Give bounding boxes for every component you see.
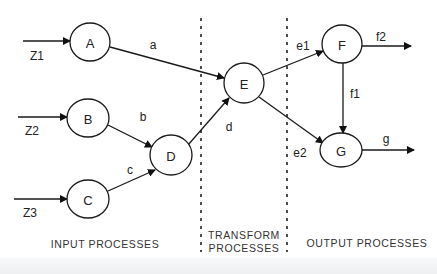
edge-label-a: a [150,38,157,52]
edge-label-g: g [383,132,390,146]
edge-label-c: c [127,163,133,177]
section-label-transform-line1: TRANSFORM [208,229,280,241]
edge-label-f2: f2 [376,30,386,44]
edge-label-z1: Z1 [30,49,44,63]
node-f-label: F [338,38,346,53]
edge-label-d: d [226,120,233,134]
node-b-label: B [84,112,93,127]
node-e: E [224,63,264,103]
section-label-input: INPUT PROCESSES [51,238,160,250]
edge-e1 [263,51,323,75]
node-g-label: G [336,144,346,159]
section-label-transform-line2: PROCESSES [209,242,280,254]
edge-label-e2: e2 [293,146,307,160]
edge-label-z2: Z2 [25,124,39,138]
node-f: F [322,25,362,63]
edge-e2 [259,97,323,143]
process-flow-diagram: A B C D E F G Z1 Z2 Z3 a b c d e1 e2 f1 … [0,0,437,274]
node-e-label: E [240,77,249,92]
node-a-label: A [86,36,95,51]
edge-b [108,125,152,147]
edge-a [110,47,224,78]
edge-label-b: b [140,110,147,124]
edge-label-e1: e1 [296,39,310,53]
node-d: D [150,135,192,175]
node-g: G [320,133,362,167]
edge-d [188,98,229,145]
node-b: B [67,99,109,137]
node-c-label: C [83,193,92,208]
section-label-output: OUTPUT PROCESSES [307,237,428,249]
node-a: A [70,23,110,61]
scan-edge-shading [0,258,437,274]
edge-label-f1: f1 [350,87,360,101]
node-d-label: D [166,149,175,164]
node-c: C [67,180,109,218]
edge-label-z3: Z3 [23,206,37,220]
